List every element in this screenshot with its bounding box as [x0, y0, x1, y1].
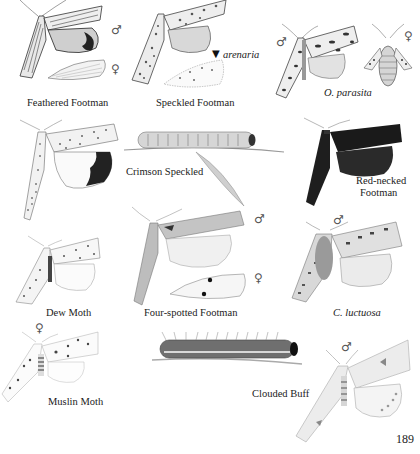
figure-crimson-speckled-adult: [10, 120, 120, 220]
field-guide-plate: ♂ ♀ Feathered Footman ▼ arenaria Speckle…: [0, 0, 420, 454]
four-spotted-footman-female-wing: [168, 270, 248, 302]
label-four-spotted-footman: Four-spotted Footman: [144, 307, 237, 319]
label-feathered-footman: Feathered Footman: [27, 97, 108, 109]
label-speckled-footman: Speckled Footman: [156, 97, 234, 109]
figure-clouded-buff-adult: [296, 336, 412, 444]
figure-speckled-footman: [130, 0, 230, 90]
muslin-moth-illustration: [2, 332, 102, 404]
label-o-parasita: O. parasita: [324, 87, 372, 99]
figure-four-spotted-footman-female: [168, 270, 248, 302]
label-muslin-moth: Muslin Moth: [48, 396, 103, 408]
clouded-buff-larva-illustration: [152, 330, 302, 370]
label-c-luctuosa: C. luctuosa: [333, 307, 381, 319]
pointer-symbol: ▼: [212, 48, 220, 60]
figure-dew-moth: [14, 236, 104, 306]
male-symbol: ♂: [254, 213, 265, 225]
figure-c-luctuosa: [292, 222, 412, 304]
label-crimson-speckled: Crimson Speckled: [126, 166, 203, 178]
crimson-speckled-adult-illustration: [10, 120, 120, 220]
clouded-buff-adult-illustration: [296, 336, 412, 444]
crimson-speckled-larva-illustration: [124, 120, 284, 210]
feathered-footman-female-wing: [12, 0, 112, 85]
c-luctuosa-illustration: [292, 222, 412, 304]
female-symbol: ♀: [111, 63, 120, 75]
male-symbol: ♂: [111, 24, 122, 36]
label-red-necked-line2: Footman: [360, 187, 397, 199]
figure-clouded-buff-larva: [152, 330, 302, 370]
page-number: 189: [396, 432, 414, 447]
figure-muslin-moth: [2, 332, 102, 404]
figure-feathered-footman: [12, 0, 112, 85]
label-dew-moth: Dew Moth: [46, 307, 91, 319]
female-symbol: ♀: [404, 30, 413, 42]
dew-moth-illustration: [14, 236, 104, 306]
speckled-footman-arenaria-wing: [130, 0, 230, 90]
label-arenaria: arenaria: [223, 49, 259, 61]
female-symbol: ♀: [254, 272, 263, 284]
label-red-necked-line1: Red-necked: [356, 175, 406, 187]
figure-crimson-speckled-larva: [124, 120, 284, 210]
